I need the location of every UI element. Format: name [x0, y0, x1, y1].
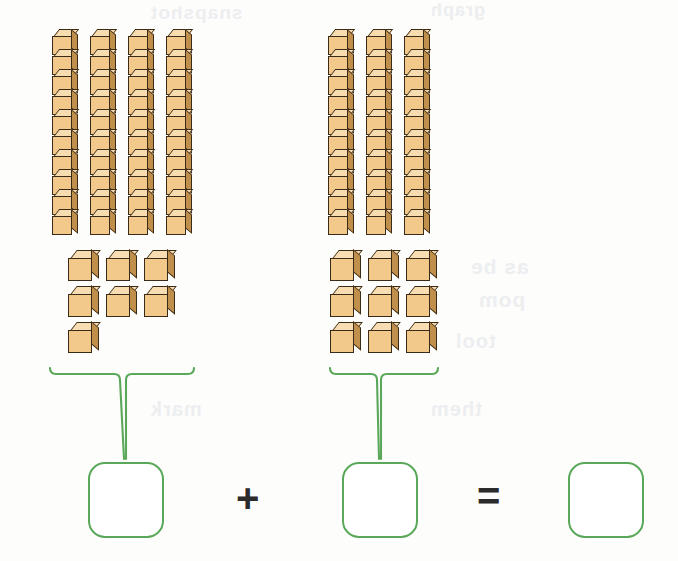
worksheet-canvas: snapshot graph as be pom tool mark them …: [0, 0, 678, 561]
ones-cube: [406, 322, 436, 354]
rod-unit-cube: [404, 170, 426, 190]
rod-unit-cube: [328, 50, 350, 70]
ones-cube: [330, 250, 360, 282]
rod-unit-cube: [404, 210, 426, 230]
rod-unit-cube: [366, 210, 388, 230]
rod-unit-cube: [328, 90, 350, 110]
rod-unit-cube: [404, 110, 426, 130]
plus-operator: +: [236, 478, 259, 518]
ones-cube: [406, 286, 436, 318]
rod-unit-cube: [328, 30, 350, 50]
rod-unit-cube: [366, 90, 388, 110]
rod-unit-cube: [328, 170, 350, 190]
equals-operator: =: [477, 476, 500, 516]
rod-unit-cube: [366, 190, 388, 210]
rod-unit-cube: [404, 50, 426, 70]
rod-unit-cube: [404, 70, 426, 90]
rod-unit-cube: [366, 170, 388, 190]
rod-unit-cube: [366, 70, 388, 90]
ones-cube: [330, 322, 360, 354]
rod-unit-cube: [328, 110, 350, 130]
answer-box-sum[interactable]: [568, 462, 644, 538]
answer-box-addend-2[interactable]: [342, 462, 418, 538]
rod-unit-cube: [328, 150, 350, 170]
rod-unit-cube: [366, 50, 388, 70]
rod-unit-cube: [328, 210, 350, 230]
bleed-through-text: graph: [430, 0, 485, 21]
rod-unit-cube: [366, 130, 388, 150]
rod-unit-cube: [404, 130, 426, 150]
bleed-through-text: tool: [455, 330, 496, 353]
block-group-addend-2: [0, 0, 240, 380]
rod-unit-cube: [328, 130, 350, 150]
tens-rod: [404, 30, 434, 230]
bleed-through-text: as be: [470, 255, 529, 279]
rod-unit-cube: [328, 70, 350, 90]
rod-unit-cube: [366, 30, 388, 50]
bleed-through-text: mark: [150, 398, 202, 421]
rod-unit-cube: [328, 190, 350, 210]
ones-cube: [368, 286, 398, 318]
bleed-through-text: pom: [478, 288, 525, 312]
rod-unit-cube: [404, 150, 426, 170]
rod-unit-cube: [404, 30, 426, 50]
bleed-through-text: them: [430, 398, 482, 421]
rod-unit-cube: [404, 190, 426, 210]
tens-rod: [328, 30, 358, 230]
rod-unit-cube: [366, 110, 388, 130]
ones-cube: [406, 250, 436, 282]
ones-cube: [368, 250, 398, 282]
answer-box-addend-1[interactable]: [88, 462, 164, 538]
tens-rod: [366, 30, 396, 230]
rod-unit-cube: [366, 150, 388, 170]
rod-unit-cube: [404, 90, 426, 110]
ones-cube: [330, 286, 360, 318]
ones-cube: [368, 322, 398, 354]
